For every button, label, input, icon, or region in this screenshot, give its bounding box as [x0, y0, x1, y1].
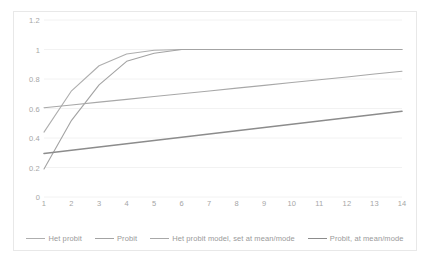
legend-line-swatch	[26, 238, 45, 239]
gridlines	[44, 20, 402, 197]
legend-line-swatch	[95, 238, 114, 239]
chart-container: 00.20.40.60.811.2 1234567891011121314 He…	[0, 0, 429, 261]
series-line-3	[44, 111, 402, 153]
x-tick-label: 5	[152, 199, 156, 208]
y-tick-label: 0	[36, 193, 40, 202]
x-tick-label: 6	[180, 199, 184, 208]
chart-legend: Het probitProbitHet probit model, set at…	[13, 230, 417, 246]
legend-line-swatch	[150, 238, 169, 239]
legend-label: Het probit model, set at mean/mode	[172, 234, 295, 243]
x-tick-label: 9	[262, 199, 266, 208]
series-line-0	[44, 50, 402, 133]
x-tick-label: 14	[398, 199, 407, 208]
y-tick-label: 0.6	[29, 104, 40, 113]
y-tick-label: 0.8	[29, 75, 40, 84]
x-tick-label: 8	[235, 199, 239, 208]
legend-line-swatch	[308, 238, 327, 239]
x-tick-label: 10	[287, 199, 296, 208]
legend-item-0[interactable]: Het probit	[26, 234, 82, 243]
x-tick-label: 7	[207, 199, 211, 208]
y-tick-label: 1.2	[29, 16, 40, 25]
series-lines	[44, 50, 402, 169]
plot-area	[44, 20, 402, 197]
x-tick-label: 1	[42, 199, 46, 208]
x-tick-label: 3	[97, 199, 101, 208]
y-tick-label: 0.2	[29, 163, 40, 172]
x-tick-label: 11	[315, 199, 323, 208]
legend-label: Het probit	[48, 234, 82, 243]
series-line-2	[44, 71, 402, 108]
legend-item-3[interactable]: Probit, at mean/mode	[308, 234, 404, 243]
x-axis-labels: 1234567891011121314	[44, 199, 402, 213]
y-axis-labels: 00.20.40.60.811.2	[13, 20, 42, 197]
plot-svg	[44, 20, 402, 197]
y-tick-label: 0.4	[29, 134, 40, 143]
legend-label: Probit	[117, 234, 137, 243]
legend-item-2[interactable]: Het probit model, set at mean/mode	[150, 234, 295, 243]
y-tick-label: 1	[36, 45, 40, 54]
x-tick-label: 4	[124, 199, 128, 208]
legend-item-1[interactable]: Probit	[95, 234, 137, 243]
legend-label: Probit, at mean/mode	[330, 234, 404, 243]
x-tick-label: 12	[343, 199, 352, 208]
x-tick-label: 13	[370, 199, 379, 208]
x-tick-label: 2	[69, 199, 73, 208]
